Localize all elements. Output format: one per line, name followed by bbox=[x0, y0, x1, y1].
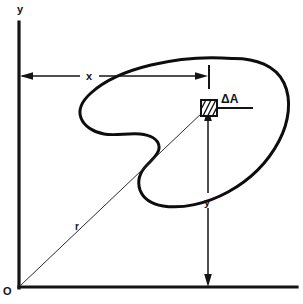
area-element-label: ΔA bbox=[221, 92, 239, 106]
y-dimension-label: y bbox=[204, 196, 211, 208]
x-dimension-label: x bbox=[86, 70, 93, 82]
radius-line bbox=[21, 111, 204, 285]
y-dimension-arrowhead-bottom bbox=[204, 274, 212, 287]
radius-label: r bbox=[75, 221, 79, 232]
origin-label: O bbox=[3, 285, 12, 297]
y-axis-label: y bbox=[17, 3, 24, 15]
radius-leader-line bbox=[21, 111, 204, 285]
figure-container: y O x y r ΔA bbox=[0, 0, 303, 304]
region-boundary bbox=[80, 58, 289, 207]
closed-irregular-area bbox=[80, 58, 289, 207]
diagram-canvas: y O x y r ΔA bbox=[0, 0, 303, 304]
x-dimension-arrowhead-right bbox=[195, 72, 208, 80]
x-dimension-arrowhead-left bbox=[20, 72, 33, 80]
